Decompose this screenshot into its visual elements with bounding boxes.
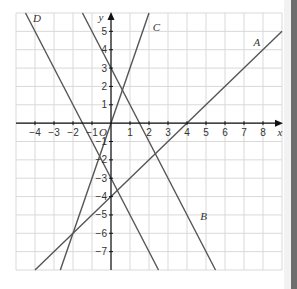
x-tick-label: −4 bbox=[29, 127, 41, 138]
line-label-a: A bbox=[253, 36, 261, 48]
y-tick-label: 1 bbox=[101, 99, 107, 110]
y-tick-label: −4 bbox=[96, 191, 108, 202]
y-tick-label: 2 bbox=[101, 81, 107, 92]
x-axis-label: x bbox=[277, 126, 283, 138]
y-axis-label: y bbox=[98, 11, 104, 23]
tick-labels: −4−3−2−112345678−7−6−5−4−3−2−112345xyO bbox=[29, 11, 282, 257]
x-tick-label: 4 bbox=[184, 127, 190, 138]
page-edge bbox=[284, 0, 291, 289]
y-tick-label: −6 bbox=[96, 228, 108, 239]
x-tick-label: 2 bbox=[146, 127, 152, 138]
line-label-c: C bbox=[153, 21, 161, 33]
x-tick-label: −2 bbox=[67, 127, 79, 138]
scrollbar[interactable] bbox=[291, 0, 297, 289]
y-tick-label: −2 bbox=[96, 154, 108, 165]
y-tick-label: 3 bbox=[101, 63, 107, 74]
x-tick-label: 1 bbox=[127, 127, 133, 138]
y-tick-label: 5 bbox=[101, 26, 107, 37]
x-tick-label: 7 bbox=[241, 127, 247, 138]
line-label-d: D bbox=[32, 12, 41, 24]
line-label-b: B bbox=[200, 210, 207, 222]
x-tick-label: 6 bbox=[222, 127, 228, 138]
line-labels: ABCD bbox=[32, 12, 260, 222]
x-tick-label: 8 bbox=[260, 127, 266, 138]
x-tick-label: 3 bbox=[165, 127, 171, 138]
origin-label: O bbox=[99, 126, 107, 138]
x-tick-label: −3 bbox=[48, 127, 60, 138]
y-tick-label: −7 bbox=[96, 246, 108, 257]
y-tick-label: 4 bbox=[101, 44, 107, 55]
chart: −4−3−2−112345678−7−6−5−4−3−2−112345xyO A… bbox=[0, 0, 297, 289]
y-tick-label: −3 bbox=[96, 173, 108, 184]
y-tick-label: −5 bbox=[96, 209, 108, 220]
x-tick-label: 5 bbox=[203, 127, 209, 138]
